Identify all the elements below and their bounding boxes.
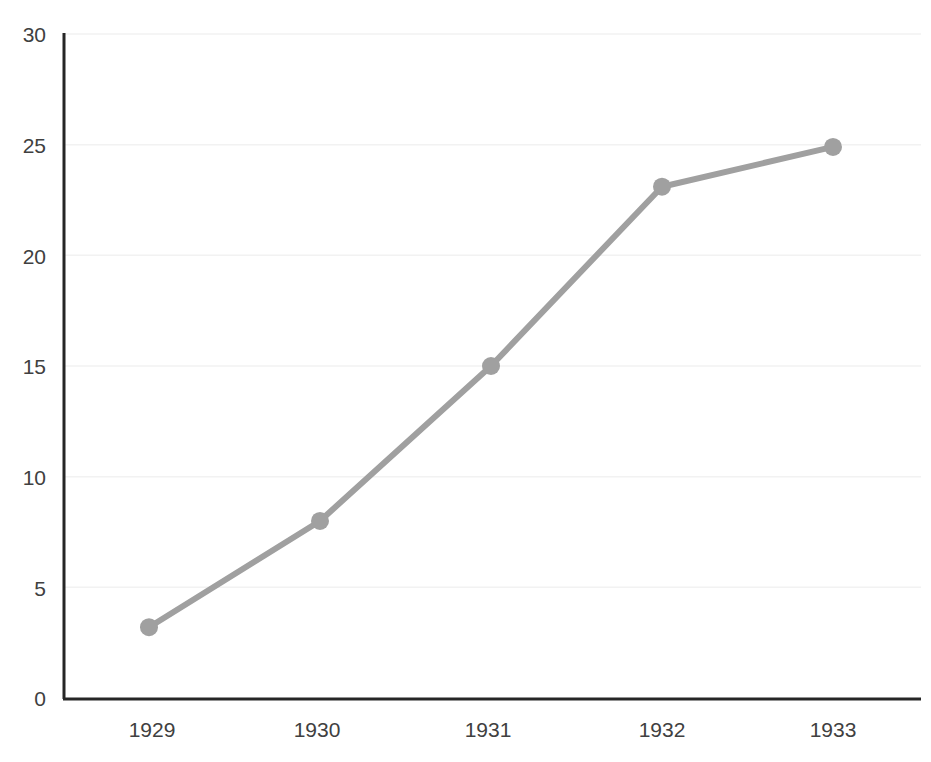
data-point-marker[interactable]	[482, 357, 500, 375]
line-plot-area	[0, 0, 931, 762]
gridlines-group	[65, 34, 921, 587]
data-point-marker[interactable]	[311, 512, 329, 530]
data-point-marker[interactable]	[140, 618, 158, 636]
data-point-marker[interactable]	[824, 138, 842, 156]
chart-container: 30 25 20 15 10 5 0 1929 1930 1931 1932 1…	[0, 0, 931, 762]
data-series-group	[140, 138, 842, 636]
series-line	[149, 147, 833, 627]
data-point-marker[interactable]	[653, 178, 671, 196]
